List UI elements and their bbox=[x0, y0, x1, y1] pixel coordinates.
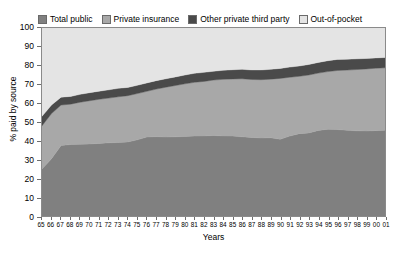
y-axis-tick-label: 30 bbox=[25, 156, 34, 164]
x-axis-title: Years bbox=[41, 232, 386, 242]
x-axis-tick-mark bbox=[99, 217, 100, 220]
x-axis-tick-mark bbox=[79, 217, 80, 220]
x-axis-tick-mark bbox=[376, 217, 377, 220]
x-axis-tick-label: 93 bbox=[306, 221, 313, 228]
legend-label: Other private third party bbox=[200, 15, 289, 24]
y-axis-tick-label: 50 bbox=[25, 118, 34, 126]
legend-item[interactable]: Other private third party bbox=[188, 15, 289, 24]
x-axis-tick-label: 95 bbox=[325, 221, 332, 228]
y-axis-tick-label: 90 bbox=[25, 42, 34, 50]
x-axis-tick-mark bbox=[175, 217, 176, 220]
x-axis-tick-label: 86 bbox=[239, 221, 246, 228]
y-axis-tick-label: 60 bbox=[25, 99, 34, 107]
x-axis-tick-mark bbox=[127, 217, 128, 220]
y-axis-tick-label: 80 bbox=[25, 61, 34, 69]
legend-item[interactable]: Total public bbox=[38, 15, 93, 24]
x-axis-tick-label: 79 bbox=[172, 221, 179, 228]
stacked-area-chart: Total publicPrivate insuranceOther priva… bbox=[0, 0, 395, 255]
y-axis-tick-label: 0 bbox=[29, 213, 34, 221]
x-axis-tick-mark bbox=[261, 217, 262, 220]
legend-swatch-icon bbox=[188, 15, 197, 24]
x-axis-tick-label: 68 bbox=[66, 221, 73, 228]
x-axis-tick-mark bbox=[367, 217, 368, 220]
x-axis-tick-mark bbox=[319, 217, 320, 220]
legend-item[interactable]: Private insurance bbox=[102, 15, 180, 24]
x-axis-tick-mark bbox=[146, 217, 147, 220]
x-axis-tick-mark bbox=[300, 217, 301, 220]
x-axis-tick-mark bbox=[204, 217, 205, 220]
x-axis-tick-mark bbox=[185, 217, 186, 220]
legend-swatch-icon bbox=[299, 15, 308, 24]
x-axis-tick-mark bbox=[108, 217, 109, 220]
x-axis-tick-mark bbox=[118, 217, 119, 220]
x-axis-tick-mark bbox=[386, 217, 387, 220]
x-axis-tick-mark bbox=[41, 217, 42, 220]
x-axis-tick-mark bbox=[281, 217, 282, 220]
x-axis-tick-label: 87 bbox=[248, 221, 255, 228]
x-axis-tick-label: 70 bbox=[85, 221, 92, 228]
x-axis-tick-mark bbox=[214, 217, 215, 220]
x-axis-tick-label: 00 bbox=[373, 221, 380, 228]
y-axis-tick-label: 20 bbox=[25, 175, 34, 183]
x-axis-tick-label: 84 bbox=[220, 221, 227, 228]
legend-item[interactable]: Out-of-pocket bbox=[299, 15, 363, 24]
x-axis-tick-label: 66 bbox=[47, 221, 54, 228]
y-axis-tick-label: 40 bbox=[25, 137, 34, 145]
plot-area bbox=[41, 27, 386, 217]
x-axis-tick-mark bbox=[338, 217, 339, 220]
x-axis-tick-label: 67 bbox=[57, 221, 64, 228]
x-axis-tick-label: 96 bbox=[335, 221, 342, 228]
x-axis-tick-label: 74 bbox=[124, 221, 131, 228]
x-axis-tick-label: 81 bbox=[191, 221, 198, 228]
x-axis-tick-mark bbox=[252, 217, 253, 220]
x-axis-tick-mark bbox=[271, 217, 272, 220]
x-axis-tick-label: 91 bbox=[287, 221, 294, 228]
x-axis-tick-mark bbox=[51, 217, 52, 220]
x-axis-tick-mark bbox=[89, 217, 90, 220]
x-axis-tick-label: 65 bbox=[37, 221, 44, 228]
x-axis-tick-mark bbox=[242, 217, 243, 220]
x-axis-tick-label: 90 bbox=[277, 221, 284, 228]
x-axis-tick-label: 82 bbox=[200, 221, 207, 228]
x-axis-tick-mark bbox=[194, 217, 195, 220]
x-axis-tick-label: 76 bbox=[143, 221, 150, 228]
legend-label: Out-of-pocket bbox=[311, 15, 363, 24]
plot-svg bbox=[42, 28, 385, 216]
x-axis-tick-mark bbox=[60, 217, 61, 220]
x-axis-tick-label: 78 bbox=[162, 221, 169, 228]
x-axis-tick-mark bbox=[137, 217, 138, 220]
x-axis-tick-label: 77 bbox=[152, 221, 159, 228]
x-axis-tick-label: 92 bbox=[296, 221, 303, 228]
x-axis-tick-label: 72 bbox=[105, 221, 112, 228]
x-axis-tick-label: 89 bbox=[267, 221, 274, 228]
x-axis-tick-label: 88 bbox=[258, 221, 265, 228]
x-axis-tick-mark bbox=[290, 217, 291, 220]
x-axis-tick-mark bbox=[70, 217, 71, 220]
x-axis-tick-mark bbox=[329, 217, 330, 220]
x-axis-tick-mark bbox=[233, 217, 234, 220]
x-axis-tick-label: 83 bbox=[210, 221, 217, 228]
x-axis-tick-label: 85 bbox=[229, 221, 236, 228]
x-axis-tick-label: 98 bbox=[354, 221, 361, 228]
legend-label: Private insurance bbox=[114, 15, 180, 24]
x-axis-tick-label: 80 bbox=[181, 221, 188, 228]
x-axis-tick-label: 75 bbox=[133, 221, 140, 228]
x-axis-tick-label: 01 bbox=[382, 221, 389, 228]
x-axis-tick-mark bbox=[348, 217, 349, 220]
x-axis-tick-label: 97 bbox=[344, 221, 351, 228]
y-axis-tick-label: 100 bbox=[20, 23, 34, 31]
y-axis-tick-label: 70 bbox=[25, 80, 34, 88]
x-axis: 6566676869707172737475767778798081828384… bbox=[41, 217, 386, 233]
x-axis-tick-mark bbox=[357, 217, 358, 220]
legend-label: Total public bbox=[50, 15, 93, 24]
x-axis-tick-mark bbox=[156, 217, 157, 220]
x-axis-tick-label: 69 bbox=[76, 221, 83, 228]
x-axis-tick-label: 71 bbox=[95, 221, 102, 228]
x-axis-tick-mark bbox=[309, 217, 310, 220]
legend-swatch-icon bbox=[102, 15, 111, 24]
x-axis-tick-mark bbox=[223, 217, 224, 220]
y-axis: % paid by source 0102030405060708090100 bbox=[0, 20, 41, 225]
x-axis-tick-mark bbox=[166, 217, 167, 220]
x-axis-tick-label: 73 bbox=[114, 221, 121, 228]
y-axis-title: % paid by source bbox=[8, 49, 18, 169]
